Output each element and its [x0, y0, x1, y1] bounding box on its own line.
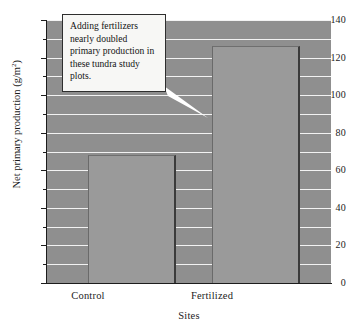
- y-axis-title-main: Net primary production (g/m: [11, 67, 22, 189]
- x-axis-line: [46, 283, 332, 284]
- y-tick-label-100: 100: [312, 90, 346, 100]
- y-axis-title-exponent: 2: [10, 63, 18, 67]
- y-tick-label-140: 140: [312, 15, 346, 25]
- bar-fertilized: [212, 46, 300, 283]
- y-tick-130: [43, 39, 47, 40]
- bar-control: [88, 155, 176, 283]
- x-category-label-fertilized: Fertilized: [152, 290, 272, 301]
- y-tick-label-80: 80: [312, 128, 346, 138]
- x-category-label-control: Control: [28, 290, 148, 301]
- y-tick-40: [41, 208, 47, 209]
- y-tick-140: [41, 20, 47, 21]
- y-tick-label-0: 0: [312, 278, 346, 288]
- y-tick-110: [43, 76, 47, 77]
- y-tick-label-20: 20: [312, 240, 346, 250]
- y-tick-label-120: 120: [312, 53, 346, 63]
- y-tick-70: [43, 152, 47, 153]
- x-axis-title: Sites: [47, 310, 331, 321]
- y-tick-50: [43, 189, 47, 190]
- y-tick-label-40: 40: [312, 203, 346, 213]
- callout-annotation-box: Adding fertilizers nearly doubled primar…: [62, 14, 166, 92]
- y-tick-90: [43, 114, 47, 115]
- y-axis-title: Net primary production (g/m2): [10, 24, 23, 224]
- y-tick-label-60: 60: [312, 165, 346, 175]
- callout-text: Adding fertilizers nearly doubled primar…: [70, 20, 154, 81]
- y-tick-120: [41, 58, 47, 59]
- bar-chart-figure: 140 120 100 80 60 40 20 0 Net primary pr…: [0, 0, 346, 328]
- y-tick-30: [43, 227, 47, 228]
- y-tick-20: [41, 245, 47, 246]
- y-tick-80: [41, 133, 47, 134]
- y-tick-60: [41, 170, 47, 171]
- y-tick-10: [43, 264, 47, 265]
- y-axis-title-end: ): [11, 60, 22, 64]
- y-tick-0: [41, 283, 47, 284]
- y-tick-100: [41, 95, 47, 96]
